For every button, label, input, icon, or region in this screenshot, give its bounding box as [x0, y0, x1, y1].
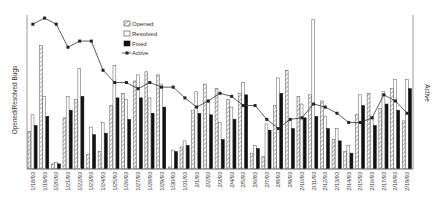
- bar-fixed: [303, 118, 306, 169]
- bar-resolved: [253, 145, 256, 168]
- y-axis-label: Opened/Resolved Bugs: [11, 65, 19, 134]
- bar-fixed: [93, 135, 96, 169]
- bar-fixed: [385, 104, 388, 168]
- active-marker: [207, 99, 210, 102]
- active-marker: [113, 81, 116, 84]
- bar-resolved: [277, 78, 280, 169]
- bar-opened: [157, 75, 160, 169]
- active-marker: [125, 81, 128, 84]
- active-marker: [300, 116, 303, 119]
- x-tick-label: 2/10/93: [299, 172, 305, 191]
- bar-opened: [63, 118, 66, 169]
- bar-resolved: [394, 79, 397, 168]
- active-line: [33, 18, 407, 129]
- bar-resolved: [335, 129, 338, 169]
- bar-fixed: [327, 129, 330, 169]
- bar-opened: [391, 89, 394, 169]
- active-marker: [359, 121, 362, 124]
- active-marker: [137, 87, 140, 90]
- active-marker: [55, 23, 58, 26]
- x-tick-label: 2/5/93: [240, 172, 246, 188]
- x-tick-label: 1/20/93: [53, 172, 59, 191]
- bar-fixed: [221, 139, 224, 168]
- active-marker: [66, 46, 69, 49]
- active-marker: [312, 103, 315, 106]
- bar-opened: [75, 99, 78, 168]
- bar-fixed: [362, 106, 365, 169]
- bar-fixed: [163, 107, 166, 168]
- bar-fixed: [128, 119, 131, 168]
- bar-fixed: [175, 152, 178, 169]
- bar-resolved: [183, 141, 186, 169]
- x-tick-label: 2/17/93: [381, 172, 387, 191]
- active-marker: [277, 127, 280, 130]
- x-tick-label: 2/13/93: [334, 172, 340, 191]
- active-marker: [148, 81, 151, 84]
- active-marker: [289, 118, 292, 121]
- bar-opened: [402, 121, 405, 169]
- bar-fixed: [280, 93, 283, 168]
- bar-resolved: [312, 20, 315, 169]
- x-tick-label: 1/25/93: [112, 172, 118, 191]
- active-marker: [394, 99, 397, 102]
- legend-item-fixed: Fixed: [124, 41, 147, 47]
- bar-resolved: [382, 92, 385, 169]
- x-tick-label: 1/28/93: [147, 172, 153, 191]
- active-marker: [219, 92, 222, 95]
- bar-resolved: [370, 116, 373, 168]
- x-tick-label: 1/23/93: [88, 172, 94, 191]
- bar-fixed: [397, 110, 400, 168]
- x-tick-label: 2/15/93: [357, 172, 363, 191]
- x-tick-label: 1/27/93: [135, 172, 141, 191]
- bar-opened: [180, 147, 183, 168]
- bar-fixed: [140, 98, 143, 169]
- active-line-series: [31, 17, 408, 131]
- bar-fixed: [256, 149, 259, 169]
- x-axis-tick-labels: 1/18/931/19/931/20/931/21/931/22/931/23/…: [30, 172, 410, 191]
- bar-fixed: [46, 116, 49, 168]
- x-tick-label: 2/7/93: [264, 172, 270, 188]
- x-tick-label: 1/24/93: [100, 172, 106, 191]
- legend-swatch-active-marker: [126, 52, 129, 55]
- x-tick-label: 2/19/93: [404, 172, 410, 191]
- bar-resolved: [195, 92, 198, 169]
- bar-resolved: [265, 124, 268, 169]
- x-tick-label: 2/1/93: [194, 172, 200, 188]
- bar-resolved: [347, 145, 350, 168]
- legend-label-fixed: Fixed: [132, 41, 147, 47]
- bar-fixed: [151, 113, 154, 168]
- active-marker: [31, 23, 34, 26]
- bar-resolved: [101, 122, 104, 168]
- bar-opened: [28, 132, 31, 169]
- x-tick-label: 2/8/93: [275, 172, 281, 188]
- bar-resolved: [54, 162, 57, 168]
- legend-item-opened: Opened: [124, 21, 153, 27]
- bar-fixed: [34, 126, 37, 169]
- bar-fixed: [315, 116, 318, 168]
- x-tick-label: 1/26/93: [123, 172, 129, 191]
- bar-opened: [215, 89, 218, 169]
- active-marker: [382, 93, 385, 96]
- bar-opened: [238, 93, 241, 168]
- x-tick-label: 2/18/93: [392, 172, 398, 191]
- bar-resolved: [288, 121, 291, 169]
- bar-opened: [297, 96, 300, 168]
- bar-resolved: [90, 127, 93, 168]
- bar-resolved: [171, 150, 174, 168]
- bar-resolved: [66, 96, 69, 168]
- active-marker: [90, 40, 93, 43]
- bar-resolved: [405, 79, 408, 168]
- bar-resolved: [43, 96, 46, 168]
- bar-resolved: [31, 115, 34, 169]
- active-marker: [230, 95, 233, 98]
- bar-fixed: [409, 89, 412, 169]
- x-tick-label: 2/14/93: [346, 172, 352, 191]
- active-marker: [242, 104, 245, 107]
- bar-fixed: [268, 130, 271, 168]
- x-tick-label: 2/12/93: [322, 172, 328, 191]
- bar-fixed: [373, 126, 376, 169]
- bar-opened: [203, 84, 206, 168]
- active-marker: [324, 106, 327, 109]
- bar-fixed: [186, 145, 189, 168]
- bar-resolved: [160, 84, 163, 168]
